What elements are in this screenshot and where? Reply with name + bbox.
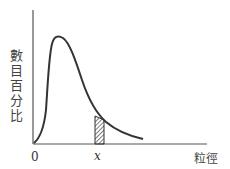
distribution-diagram bbox=[0, 0, 230, 169]
y-axis-label: 數目百分比 bbox=[8, 48, 24, 123]
distribution-curve bbox=[34, 36, 143, 143]
origin-label: 0 bbox=[31, 150, 39, 164]
x-axis-label: 粒徑 bbox=[194, 149, 218, 166]
x-marker-label: x bbox=[94, 149, 101, 163]
hatched-strip bbox=[95, 116, 104, 144]
